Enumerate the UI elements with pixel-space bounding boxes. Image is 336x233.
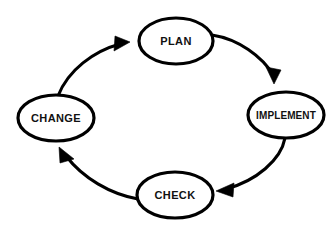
node-check-label: CHECK bbox=[154, 189, 195, 201]
pdca-cycle-diagram: PLAN IMPLEMENT CHECK CHANGE bbox=[0, 0, 336, 233]
curved-arrow-icon bbox=[58, 44, 120, 96]
curved-arrow-icon bbox=[66, 156, 138, 199]
node-change-label: CHANGE bbox=[31, 112, 81, 124]
node-implement[interactable]: IMPLEMENT bbox=[248, 92, 324, 138]
node-plan[interactable]: PLAN bbox=[139, 18, 213, 64]
arrow-head-icon bbox=[114, 36, 130, 51]
node-group: PLAN IMPLEMENT CHECK CHANGE bbox=[18, 18, 324, 218]
edge-check-to-change bbox=[59, 147, 138, 199]
node-change[interactable]: CHANGE bbox=[18, 95, 94, 141]
edge-plan-to-implement bbox=[212, 35, 281, 84]
edge-change-to-plan bbox=[58, 36, 130, 96]
curved-arrow-icon bbox=[212, 35, 274, 76]
curved-arrow-icon bbox=[226, 138, 285, 189]
cycle-canvas: PLAN IMPLEMENT CHECK CHANGE bbox=[0, 0, 336, 233]
edge-implement-to-check bbox=[216, 138, 285, 197]
arrow-head-icon bbox=[216, 183, 234, 197]
node-check[interactable]: CHECK bbox=[137, 172, 213, 218]
node-implement-label: IMPLEMENT bbox=[256, 110, 316, 121]
arrow-head-icon bbox=[266, 67, 281, 84]
node-plan-label: PLAN bbox=[160, 35, 192, 47]
